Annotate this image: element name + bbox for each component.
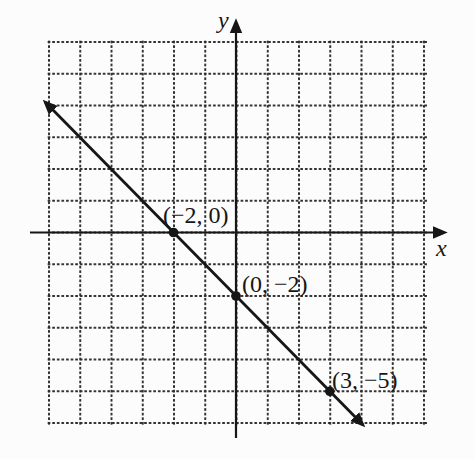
x-axis-label: x [435, 235, 447, 261]
coordinate-plane-figure: (−2, 0) (0, −2) (3, −5) y x [0, 0, 474, 459]
graph-canvas: (−2, 0) (0, −2) (3, −5) y x [0, 0, 474, 459]
point-0-neg2 [231, 291, 241, 301]
point-label-0-neg2: (0, −2) [242, 271, 308, 297]
plotted-line [45, 102, 362, 424]
y-axis-label: y [216, 7, 229, 33]
point-label-neg2-0: (−2, 0) [163, 202, 229, 228]
point-neg2-0 [169, 228, 179, 238]
point-label-3-neg5: (3, −5) [332, 367, 398, 393]
